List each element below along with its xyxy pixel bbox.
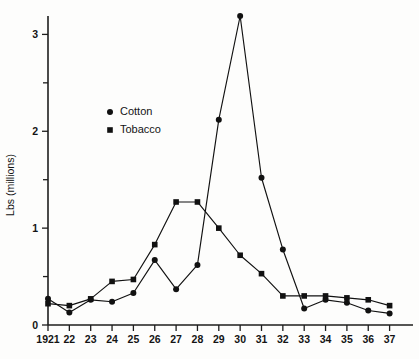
chart-legend: CottonTobacco xyxy=(107,105,161,135)
legend-label-tobacco: Tobacco xyxy=(120,123,161,135)
data-point-cotton xyxy=(365,307,371,313)
data-point-tobacco xyxy=(387,303,393,309)
x-tick-label: 28 xyxy=(192,333,204,345)
data-point-cotton xyxy=(130,290,136,296)
data-point-tobacco xyxy=(237,252,243,258)
x-axis-ticks: 192122232425262728293031323334353637 xyxy=(36,325,395,345)
legend-marker-tobacco xyxy=(107,127,113,133)
x-tick-label: 29 xyxy=(213,333,225,345)
data-point-tobacco xyxy=(195,199,201,205)
data-point-tobacco xyxy=(67,303,73,309)
legend-label-cotton: Cotton xyxy=(120,105,152,117)
x-tick-label: 25 xyxy=(128,333,140,345)
x-tick-label: 32 xyxy=(277,333,289,345)
data-point-tobacco xyxy=(365,297,371,303)
data-point-tobacco xyxy=(173,199,179,205)
x-tick-label: 33 xyxy=(298,333,310,345)
data-point-cotton xyxy=(109,299,115,305)
x-tick-label: 26 xyxy=(149,333,161,345)
data-point-cotton xyxy=(280,246,286,252)
data-point-cotton xyxy=(194,262,200,268)
x-tick-label: 22 xyxy=(64,333,76,345)
data-point-cotton xyxy=(301,306,307,312)
data-point-tobacco xyxy=(344,295,350,301)
x-tick-label: 37 xyxy=(384,333,396,345)
data-point-cotton xyxy=(387,310,393,316)
y-axis-ticks: 0123 xyxy=(32,28,48,331)
data-point-cotton xyxy=(259,175,265,181)
data-point-tobacco xyxy=(109,279,115,285)
y-tick-label: 3 xyxy=(32,28,38,40)
data-point-tobacco xyxy=(216,225,222,231)
x-tick-label: 1921 xyxy=(36,333,60,345)
y-tick-label: 2 xyxy=(32,125,38,137)
line-chart: 0123 19212223242526272829303132333435363… xyxy=(0,0,419,359)
data-point-cotton xyxy=(237,13,243,19)
y-tick-label: 0 xyxy=(32,319,38,331)
data-point-tobacco xyxy=(259,271,265,277)
data-point-cotton xyxy=(66,309,72,315)
y-tick-label: 1 xyxy=(32,222,38,234)
x-tick-label: 31 xyxy=(256,333,268,345)
x-tick-label: 27 xyxy=(170,333,182,345)
data-point-cotton xyxy=(173,286,179,292)
series-line-cotton xyxy=(48,16,390,313)
data-point-tobacco xyxy=(131,277,137,283)
data-point-tobacco xyxy=(45,301,51,307)
data-point-tobacco xyxy=(88,296,94,302)
data-point-tobacco xyxy=(152,242,158,248)
legend-marker-cotton xyxy=(107,109,113,115)
x-tick-label: 34 xyxy=(320,333,332,345)
x-tick-label: 35 xyxy=(341,333,353,345)
data-point-cotton xyxy=(216,117,222,123)
chart-container: 0123 19212223242526272829303132333435363… xyxy=(0,0,419,359)
x-tick-label: 30 xyxy=(234,333,246,345)
series-layer xyxy=(45,13,393,316)
x-tick-label: 36 xyxy=(362,333,374,345)
x-tick-label: 23 xyxy=(85,333,97,345)
data-point-tobacco xyxy=(301,293,307,299)
data-point-tobacco xyxy=(323,293,329,299)
data-point-cotton xyxy=(152,257,158,263)
data-point-tobacco xyxy=(280,293,286,299)
y-axis-title: Lbs (millions) xyxy=(4,154,16,216)
series-line-tobacco xyxy=(48,202,390,306)
x-tick-label: 24 xyxy=(106,333,118,345)
